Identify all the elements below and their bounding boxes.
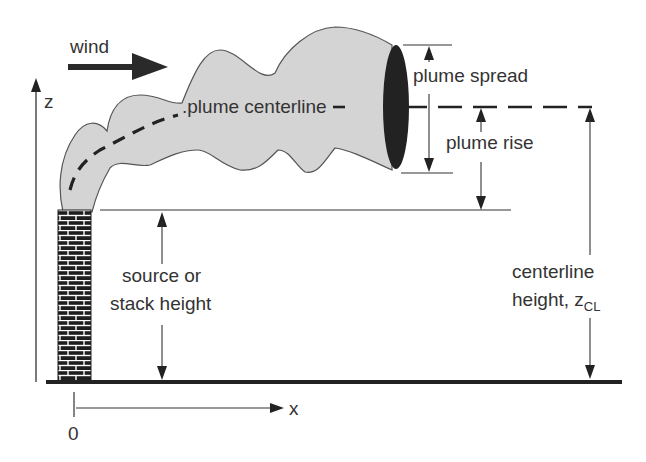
wind-arrow-icon xyxy=(68,53,168,80)
plume-spread-label: plume spread xyxy=(413,65,528,86)
smokestack xyxy=(58,210,91,382)
z-axis xyxy=(31,78,41,382)
x-axis xyxy=(74,392,284,417)
ground-line xyxy=(46,380,622,384)
stack-height-label-line2: stack height xyxy=(110,293,212,314)
z-axis-label: z xyxy=(44,91,54,112)
plume-rise-label: plume rise xyxy=(446,132,534,153)
centerline-height-label-line2: height, zCL xyxy=(512,289,600,314)
origin-label: 0 xyxy=(68,423,79,444)
centerline-height-dimension xyxy=(585,108,595,379)
plume-diagram: wind z .plume centerline plume spread pl… xyxy=(0,0,646,462)
stack-height-label-line1: source or xyxy=(122,265,202,286)
plume-centerline-label: .plume centerline xyxy=(182,96,327,117)
x-axis-label: x xyxy=(289,398,299,419)
wind-label: wind xyxy=(69,36,109,57)
plume-shape xyxy=(60,27,392,212)
plume-rise-dimension xyxy=(476,108,486,210)
centerline-height-label-line1: centerline xyxy=(512,261,594,282)
